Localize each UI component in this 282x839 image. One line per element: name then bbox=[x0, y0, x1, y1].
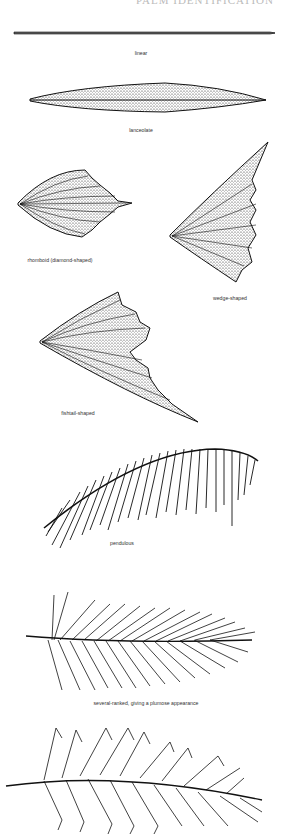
caption-plumose: several-ranked, giving a plumose appeara… bbox=[94, 700, 199, 706]
rhomboid-leaf-illustration bbox=[18, 170, 132, 237]
caption-pendulous: pendulous bbox=[110, 540, 134, 546]
drooping-pinnae-leaf-illustration bbox=[6, 728, 262, 834]
plumose-leaf-illustration bbox=[26, 592, 255, 690]
wedge-shaped-leaf-illustration bbox=[170, 142, 268, 282]
lanceolate-leaf-illustration bbox=[30, 83, 266, 112]
caption-fishtail-shaped: fishtail-shaped bbox=[61, 410, 94, 416]
caption-wedge-shaped: wedge-shaped bbox=[213, 295, 247, 301]
caption-linear: linear bbox=[135, 50, 148, 56]
linear-leaf-illustration bbox=[14, 32, 275, 34]
fishtail-leaf-illustration bbox=[40, 292, 198, 422]
leaf-illustrations bbox=[0, 0, 282, 839]
caption-rhomboid: rhomboid (diamond-shaped) bbox=[27, 257, 92, 263]
pendulous-leaf-illustration bbox=[44, 449, 258, 548]
caption-lanceolate: lanceolate bbox=[129, 127, 153, 133]
